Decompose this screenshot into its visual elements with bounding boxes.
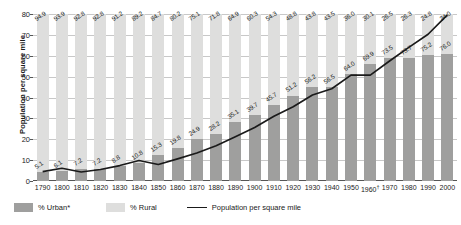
- x-axis-tick-label: 2000: [440, 184, 456, 191]
- y-axis-tick-label: 60: [10, 51, 30, 60]
- urban-swatch-icon: [14, 203, 33, 212]
- x-axis-tick-label: 1800: [54, 184, 70, 191]
- x-axis-tick-label: 1790: [35, 184, 51, 191]
- x-axis-tick-label: 1900: [247, 184, 263, 191]
- y-axis-tick-label: 40: [10, 93, 30, 102]
- rural-swatch-icon: [106, 203, 125, 212]
- x-axis-tick-label: 1810: [73, 184, 89, 191]
- x-axis-tick-label: 1970: [382, 184, 398, 191]
- legend-label-rural: % Rural: [130, 203, 157, 212]
- y-axis-tick-mark: [30, 181, 33, 182]
- x-axis-tick-label: 1910: [266, 184, 282, 191]
- plot-area: 010203040506070805.194.917906.193.918007…: [33, 14, 457, 181]
- y-axis-tick-label: 30: [10, 114, 30, 123]
- x-axis-tick-label: 1860: [170, 184, 186, 191]
- y-axis-tick-label: 70: [10, 30, 30, 39]
- x-axis-tick-label: 1830: [112, 184, 128, 191]
- y-axis-tick-label: 10: [10, 156, 30, 165]
- legend-item-rural: % Rural: [106, 203, 157, 212]
- legend-item-line: Population per square mile: [187, 203, 301, 212]
- x-axis-tick-label: 1890: [228, 184, 244, 191]
- x-axis-tick-label: 1820: [93, 184, 109, 191]
- x-axis-tick-label: 1940: [324, 184, 340, 191]
- density-line-series: [33, 14, 457, 181]
- x-axis-tick-label: 1990: [420, 184, 436, 191]
- population-density-line: [43, 15, 448, 172]
- line-swatch-icon: [187, 207, 207, 208]
- x-axis-tick-label: 1920: [285, 184, 301, 191]
- x-axis-tick-label: 1870: [189, 184, 205, 191]
- legend-label-urban: % Urban*: [38, 203, 70, 212]
- x-axis-tick-label: 1880: [208, 184, 224, 191]
- x-axis-tick-label: 1980: [401, 184, 417, 191]
- x-axis-tick-label: 1840: [131, 184, 147, 191]
- legend-label-line: Population per square mile: [212, 203, 301, 212]
- x-axis-tick-label: 1950: [343, 184, 359, 191]
- x-axis-tick-label: 1960†: [361, 184, 380, 193]
- y-axis-tick-label: 0: [10, 177, 30, 186]
- chart-legend: % Urban* % Rural Population per square m…: [14, 203, 301, 212]
- y-axis-tick-label: 80: [10, 10, 30, 19]
- y-axis-tick-label: 50: [10, 72, 30, 81]
- legend-item-urban: % Urban*: [14, 203, 70, 212]
- x-axis-tick-label: 1850: [150, 184, 166, 191]
- population-density-chart: Population per square mile 0102030405060…: [0, 0, 461, 225]
- y-axis-tick-label: 20: [10, 135, 30, 144]
- x-axis-tick-label: 1930: [305, 184, 321, 191]
